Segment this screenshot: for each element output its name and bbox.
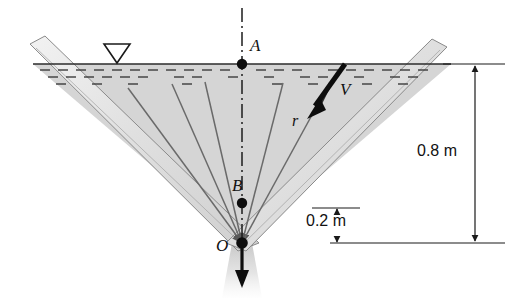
point-a-marker xyxy=(237,59,247,69)
point-o-marker xyxy=(236,237,248,249)
point-b-marker xyxy=(237,198,247,208)
diagram-svg xyxy=(0,0,520,298)
figure-canvas: A B O r V 0.8 m 0.2 m xyxy=(0,0,520,298)
free-surface-triangle-icon xyxy=(104,44,130,63)
dimension-0-2m xyxy=(312,208,360,242)
